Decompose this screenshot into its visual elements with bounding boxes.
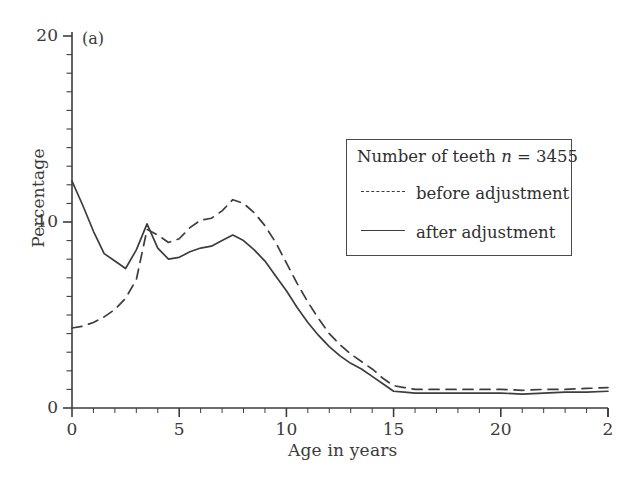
y-axis-tick-label: 20 — [24, 25, 58, 45]
legend-title-variable: n — [501, 147, 512, 166]
legend-title-suffix: = 3455 — [512, 147, 578, 166]
x-axis-tick-label: 15 — [377, 419, 411, 439]
legend-entry-before-adjustment: before adjustment — [361, 184, 569, 203]
dashed-line-swatch-icon — [361, 191, 405, 192]
x-axis-tick-label: 0 — [55, 419, 89, 439]
legend-entry-label: before adjustment — [416, 184, 569, 203]
chart-legend: Number of teeth n = 3455 before adjustme… — [346, 139, 572, 256]
panel-label: (a) — [82, 29, 104, 48]
x-axis-tick-label: 10 — [269, 419, 303, 439]
figure-panel-a: (a) Percentage Age in years 010200510152… — [0, 0, 622, 479]
y-axis-tick-label: 0 — [24, 397, 58, 417]
y-axis-title: Percentage — [28, 138, 48, 258]
x-axis-tick-label: 5 — [162, 419, 196, 439]
legend-title-prefix: Number of teeth — [357, 147, 501, 166]
x-axis-tick-label: 20 — [484, 419, 518, 439]
legend-entry-after-adjustment: after adjustment — [361, 223, 555, 242]
y-axis-tick-label: 10 — [24, 211, 58, 231]
legend-title: Number of teeth n = 3455 — [357, 147, 578, 166]
x-axis-title: Age in years — [288, 440, 397, 460]
solid-line-swatch-icon — [361, 230, 405, 231]
legend-entry-label: after adjustment — [416, 223, 555, 242]
x-axis-tick-label: 2 — [591, 419, 622, 439]
